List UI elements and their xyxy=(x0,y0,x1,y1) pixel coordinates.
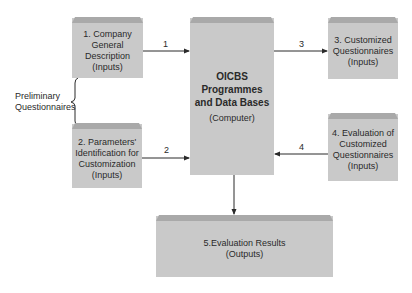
box-line: 1. Company xyxy=(83,29,132,40)
central-system-box: OICBS Programmes and Data Bases (Compute… xyxy=(190,18,274,175)
box-line: (Outputs) xyxy=(226,249,264,260)
box-line: (Inputs) xyxy=(92,170,123,181)
arrow-3-label: 3 xyxy=(299,39,304,50)
box-line: Customized xyxy=(339,139,387,150)
box-line: General xyxy=(91,40,123,51)
central-title-line: Programmes xyxy=(201,83,262,96)
box-line: (Inputs) xyxy=(348,57,379,68)
box-line: Identification for xyxy=(75,148,139,159)
brace-label-line: Questionnaires xyxy=(15,102,76,113)
box-line: (Inputs) xyxy=(92,62,123,73)
central-title-line: OICBS xyxy=(216,70,248,83)
company-description-box: 1. Company General Description (Inputs) xyxy=(72,18,143,78)
box-line: Description xyxy=(85,51,130,62)
arrow-2-label: 2 xyxy=(164,145,169,156)
arrow-1-label: 1 xyxy=(163,39,168,50)
brace-label-line: Preliminary xyxy=(15,91,76,102)
parameters-identification-box: 2. Parameters' Identification for Custom… xyxy=(72,124,142,188)
evaluation-results-box: 5.Evaluation Results (Outputs) xyxy=(156,216,333,277)
box-line: 3. Customized xyxy=(334,35,392,46)
evaluation-questionnaires-box: 4. Evaluation of Customized Questionnair… xyxy=(328,114,398,181)
box-line: 4. Evaluation of xyxy=(332,128,394,139)
box-line: 5.Evaluation Results xyxy=(203,238,285,249)
box-line: Customization xyxy=(78,159,135,170)
box-line: (Inputs) xyxy=(348,161,379,172)
preliminary-questionnaires-label: Preliminary Questionnaires xyxy=(15,91,76,113)
central-subtitle: (Computer) xyxy=(209,113,255,124)
box-line: 2. Parameters' xyxy=(78,137,136,148)
central-title-line: and Data Bases xyxy=(195,96,269,109)
box-line: Questionnaires xyxy=(333,46,394,57)
box-line: Questionnaires xyxy=(333,150,394,161)
customized-questionnaires-box: 3. Customized Questionnaires (Inputs) xyxy=(328,18,398,79)
arrow-4-label: 4 xyxy=(299,142,304,153)
